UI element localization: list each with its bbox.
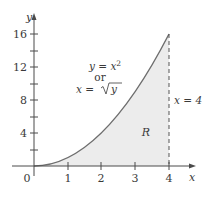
x-tick-label: 1 [65,172,72,185]
x-tick-label: 4 [166,172,173,185]
region-diagram: 1 2 3 4 0 4 8 12 16 x y y = x2 or x = y … [0,0,212,203]
y-tick-label: 12 [13,61,27,74]
origin-label: 0 [24,172,31,185]
y-axis-label: y [25,11,33,24]
y-tick-label: 8 [20,94,27,107]
region-label: R [141,126,150,139]
x-tick-label: 3 [132,172,139,185]
y-tick-label: 4 [20,127,27,140]
equation-line2-root: y [110,83,118,95]
curve-equation-label: y = x2 or x = y [76,59,122,95]
equation-or: or [94,71,106,83]
x-axis-label: x [189,171,196,184]
y-tick-label: 16 [13,28,27,41]
y-axis-arrow-icon [32,13,37,20]
x-axis-arrow-icon [189,164,196,169]
x-tick-label: 2 [98,172,105,185]
shaded-region-r [34,34,169,166]
boundary-label: x = 4 [174,94,202,106]
equation-exponent: 2 [116,59,121,68]
equation-line2-left: x = [76,83,94,95]
